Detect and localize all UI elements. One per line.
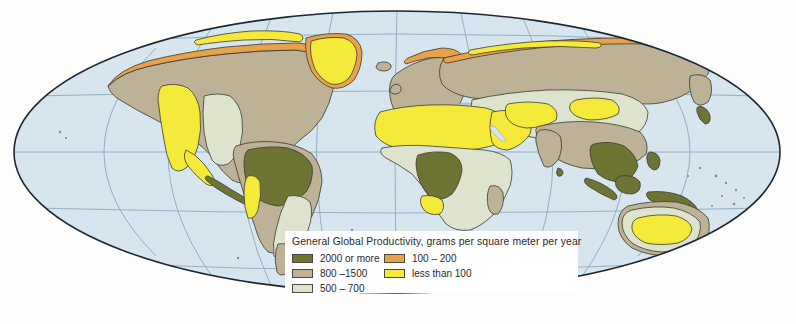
legend-item-800-1500: 800 –1500 <box>292 266 384 280</box>
world-productivity-map: General Global Productivity, grams per s… <box>0 0 796 324</box>
legend-label-100-200: 100 – 200 <box>412 253 457 264</box>
legend-item-500-700: 500 – 700 <box>292 281 384 295</box>
legend-columns: 2000 or more 800 –1500 500 – 700 100 – 2… <box>292 251 578 296</box>
legend-label-800-1500: 800 –1500 <box>320 268 367 279</box>
australia-interior <box>632 215 692 245</box>
legend-swatch-800-1500 <box>292 269 313 278</box>
gobi-taklamakan <box>570 98 620 120</box>
legend-title: General Global Productivity, grams per s… <box>292 236 578 247</box>
legend-label-2000-or-more: 2000 or more <box>320 253 379 264</box>
legend-swatch-2000-or-more <box>292 254 313 263</box>
legend-item-100-200: 100 – 200 <box>384 251 472 265</box>
new-zealand-south <box>692 266 708 280</box>
sahara <box>375 105 508 152</box>
madagascar <box>487 186 503 215</box>
legend-swatch-500-700 <box>292 284 313 293</box>
legend-item-less-than-100: less than 100 <box>384 266 472 280</box>
legend-label-500-700: 500 – 700 <box>320 283 365 294</box>
map-legend: General Global Productivity, grams per s… <box>285 231 578 293</box>
iceland <box>376 62 391 71</box>
legend-label-less-than-100: less than 100 <box>412 268 472 279</box>
legend-column-left: 2000 or more 800 –1500 500 – 700 <box>292 251 384 296</box>
legend-item-2000-or-more: 2000 or more <box>292 251 384 265</box>
legend-column-right: 100 – 200 less than 100 <box>384 251 472 296</box>
new-zealand <box>700 256 723 276</box>
legend-swatch-less-than-100 <box>384 269 405 278</box>
legend-swatch-100-200 <box>384 254 405 263</box>
tasmania <box>678 258 686 265</box>
